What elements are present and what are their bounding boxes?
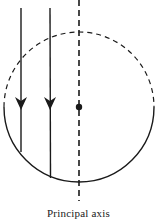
incident-ray-2	[50, 8, 51, 178]
principal-axis-label: Principal axis	[0, 207, 157, 219]
center-point-dot	[76, 104, 82, 110]
mirror-ray-diagram	[0, 0, 157, 219]
